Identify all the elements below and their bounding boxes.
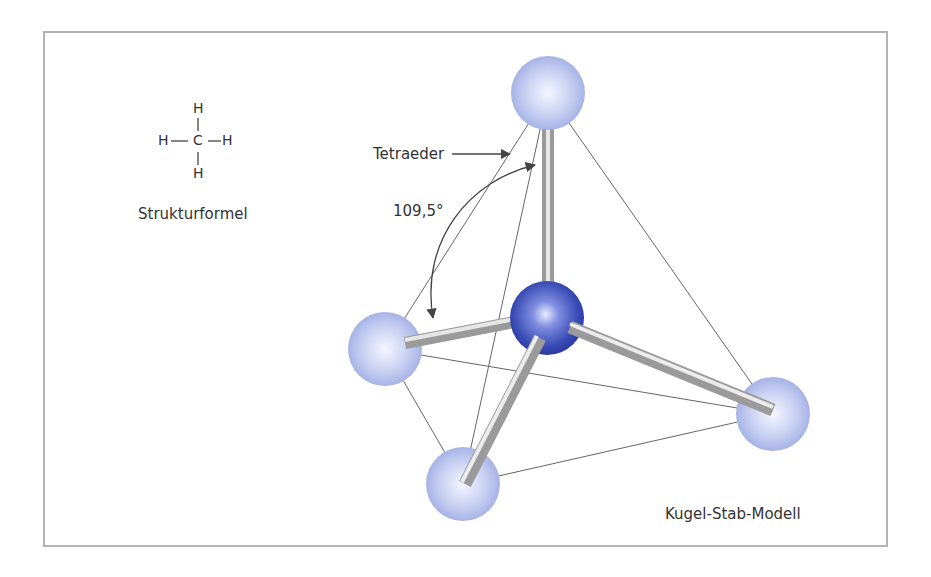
hydrogen-sphere-bottom (426, 447, 500, 521)
hydrogen-sphere-right (736, 377, 810, 451)
hydrogen-sphere-left (348, 312, 422, 386)
carbon-sphere-center (510, 281, 584, 355)
ball-and-stick-model (0, 0, 931, 577)
formula-bonds (171, 118, 221, 165)
hydrogen-sphere-top (511, 56, 585, 130)
tetrahedron-edges (385, 93, 773, 484)
